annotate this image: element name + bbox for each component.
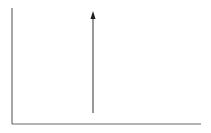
impulse-diagram <box>0 0 211 133</box>
diagram-canvas <box>0 0 211 133</box>
arrowhead-icon <box>91 11 96 19</box>
